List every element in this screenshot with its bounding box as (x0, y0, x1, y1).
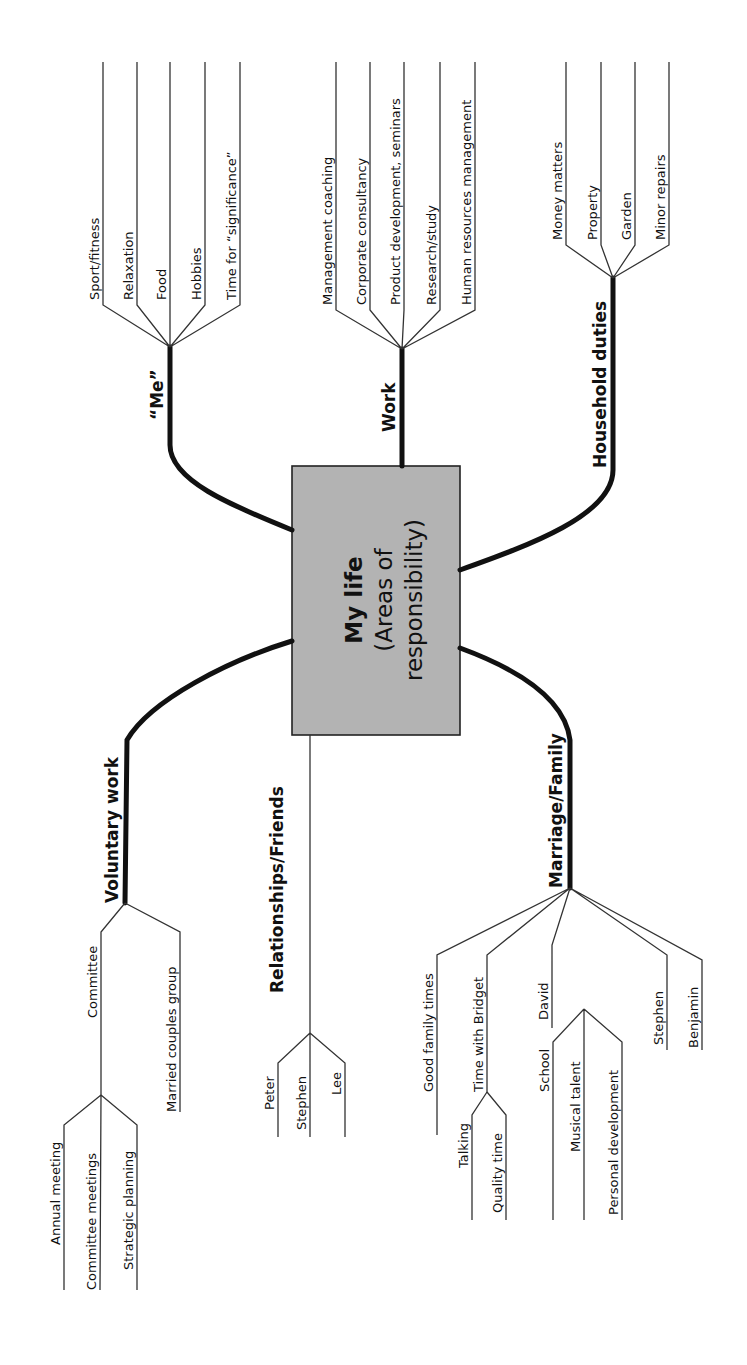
branch-relationships-label: Relationships/Friends (267, 786, 287, 993)
david-leaf-musical: Musical talent (568, 1061, 583, 1152)
me-leaf-relaxation: Relaxation (121, 231, 136, 300)
family-david: David (536, 982, 551, 1020)
branch-me-line (170, 347, 292, 530)
me-leaf-significance: Time for “significance” (224, 151, 239, 301)
work-leaf-hr: Human resources management (459, 100, 474, 305)
branch-me-label: “Me” (147, 369, 167, 420)
family-stephen: Stephen (651, 991, 666, 1045)
committee-leaf-annual: Annual meeting (48, 1142, 63, 1245)
david-leaf-personal: Personal development (606, 1070, 621, 1215)
branch-household: Household duties Money matters Property … (460, 62, 669, 570)
family-benjamin: Benjamin (686, 987, 701, 1048)
work-leaf-research: Research/study (424, 205, 439, 305)
branch-work: Work Management coaching Corporate consu… (320, 62, 475, 466)
branch-relationships: Relationships/Friends Peter Stephen Lee (262, 735, 345, 1137)
voluntary-married-couples: Married couples group (164, 966, 179, 1112)
branch-voluntary: Voluntary work Committee Married couples… (48, 641, 292, 1290)
committee-leaf-meetings: Committee meetings (84, 1153, 99, 1290)
branch-work-label: Work (379, 382, 399, 432)
branch-household-label: Household duties (590, 301, 610, 468)
me-leaf-food: Food (154, 269, 169, 300)
me-leaf-sport: Sport/fitness (87, 217, 102, 300)
branch-family: Marriage/Family Good family times Time w… (421, 648, 702, 1220)
mind-map: My life (Areas of responsibility) “Me” S… (0, 0, 747, 1365)
branch-voluntary-label: Voluntary work (102, 756, 122, 903)
david-leaf-school: School (537, 1049, 552, 1092)
work-leaf-product: Product development, seminars (388, 98, 403, 305)
branch-me-leaf-lines (103, 62, 240, 347)
family-time-with-bridget: Time with Bridget (471, 977, 486, 1093)
friend-peter: Peter (262, 1076, 277, 1110)
household-leaf-property: Property (585, 185, 600, 240)
work-leaf-consultancy: Corporate consultancy (354, 157, 369, 305)
household-leaf-repairs: Minor repairs (653, 154, 668, 240)
branch-family-label: Marriage/Family (546, 733, 566, 888)
family-good-times: Good family times (421, 973, 436, 1092)
branch-me: “Me” Sport/fitness Relaxation Food Hobbi… (87, 62, 292, 530)
voluntary-committee: Committee (85, 946, 100, 1018)
bridget-leaf-talking: Talking (456, 1123, 471, 1169)
center-subtitle-line2: responsibility) (401, 519, 427, 681)
center-subtitle-line1: (Areas of (371, 547, 397, 651)
household-leaf-garden: Garden (619, 192, 634, 240)
friend-lee: Lee (329, 1072, 344, 1095)
friend-stephen: Stephen (294, 1076, 309, 1130)
center-title: My life (341, 556, 367, 643)
household-leaf-money: Money matters (550, 142, 565, 240)
center-node: My life (Areas of responsibility) (292, 466, 460, 735)
bridget-leaf-quality-time: Quality time (490, 1133, 505, 1213)
me-leaf-hobbies: Hobbies (189, 247, 204, 300)
committee-leaf-strategic: Strategic planning (121, 1151, 136, 1270)
work-leaf-coaching: Management coaching (320, 157, 335, 305)
